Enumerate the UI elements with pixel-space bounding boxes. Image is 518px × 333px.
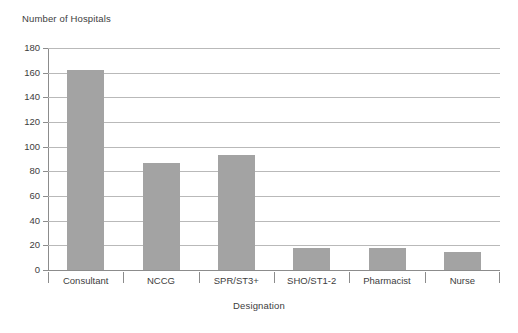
y-tick-mark-60 [43, 196, 48, 197]
x-category-separator-2 [199, 272, 200, 283]
y-tick-mark-140 [43, 97, 48, 98]
y-tick-mark-80 [43, 171, 48, 172]
x-category-separator-edge-0 [48, 272, 49, 283]
x-category-separator-5 [425, 272, 426, 283]
x-tick-label-4: Pharmacist [349, 275, 424, 286]
y-tick-mark-0 [43, 270, 48, 271]
x-tick-label-0: Consultant [48, 275, 123, 286]
bar-nurse[interactable] [444, 252, 481, 271]
y-tick-mark-160 [43, 73, 48, 74]
y-tick-label-60: 60 [0, 191, 40, 201]
x-tick-label-3: SHO/ST1-2 [274, 275, 349, 286]
x-tick-label-5: Nurse [425, 275, 500, 286]
x-category-separator-4 [349, 272, 350, 283]
gridline-180 [48, 48, 500, 49]
y-tick-label-0: 0 [0, 265, 40, 275]
bar-spr-st3-[interactable] [218, 155, 255, 270]
y-tick-label-100: 100 [0, 142, 40, 152]
bar-nccg[interactable] [143, 163, 180, 270]
y-tick-mark-180 [43, 48, 48, 49]
gridline-60 [48, 196, 500, 197]
bar-consultant[interactable] [67, 70, 104, 270]
gridline-40 [48, 221, 500, 222]
y-tick-label-160: 160 [0, 68, 40, 78]
x-category-separator-edge-1 [499, 272, 500, 283]
bar-sho-st1-2[interactable] [293, 248, 330, 270]
y-tick-mark-120 [43, 122, 48, 123]
y-tick-label-40: 40 [0, 216, 40, 226]
gridline-100 [48, 147, 500, 148]
y-tick-label-20: 20 [0, 240, 40, 250]
bar-chart-figure: Number of Hospitals 02040608010012014016… [0, 0, 518, 333]
x-tick-label-2: SPR/ST3+ [199, 275, 274, 286]
x-axis-category-strip: ConsultantNCCGSPR/ST3+SHO/ST1-2Pharmacis… [48, 271, 500, 293]
y-axis-tick-labels: 020406080100120140160180 [0, 0, 40, 333]
x-axis-title: Designation [0, 300, 518, 311]
bar-pharmacist[interactable] [369, 248, 406, 270]
x-category-separator-1 [123, 272, 124, 283]
y-tick-label-80: 80 [0, 166, 40, 176]
y-tick-mark-40 [43, 221, 48, 222]
gridline-120 [48, 122, 500, 123]
gridline-140 [48, 97, 500, 98]
plot-area [48, 48, 500, 270]
y-tick-label-140: 140 [0, 92, 40, 102]
y-tick-mark-20 [43, 245, 48, 246]
x-tick-label-1: NCCG [123, 275, 198, 286]
gridline-160 [48, 73, 500, 74]
gridline-20 [48, 245, 500, 246]
y-tick-label-120: 120 [0, 117, 40, 127]
gridline-80 [48, 171, 500, 172]
x-category-separator-3 [274, 272, 275, 283]
y-tick-label-180: 180 [0, 43, 40, 53]
y-tick-mark-100 [43, 147, 48, 148]
